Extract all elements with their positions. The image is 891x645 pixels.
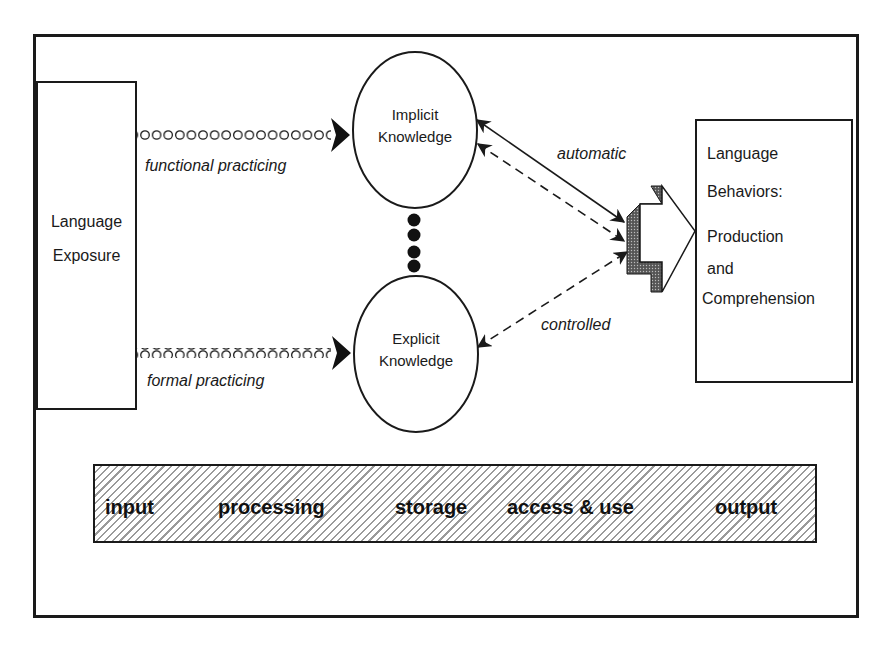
implicit-knowledge-label: Implicit Knowledge [353, 104, 477, 148]
implicit-label-line2: Knowledge [353, 126, 477, 148]
automatic-solid-arrow [477, 120, 624, 222]
formal-practicing-chain-arrow [137, 336, 351, 370]
functional-practicing-chain-arrow [137, 118, 350, 152]
explicit-label-line2: Knowledge [354, 350, 478, 372]
explicit-label-line1: Explicit [354, 328, 478, 350]
stage-access-use: access & use [507, 496, 634, 519]
implicit-label-line1: Implicit [353, 104, 477, 126]
stage-processing: processing [218, 496, 325, 519]
diagram-graphics [0, 0, 891, 645]
processing-stages-band: input processing storage access & use ou… [93, 464, 817, 543]
stage-output: output [715, 496, 777, 519]
functional-practicing-label: functional practicing [145, 157, 286, 175]
stage-storage: storage [395, 496, 467, 519]
explicit-knowledge-label: Explicit Knowledge [354, 328, 478, 372]
output-block-arrow-icon [627, 186, 695, 292]
interface-dots-icon [408, 214, 421, 273]
formal-practicing-label: formal practicing [147, 372, 264, 390]
stage-input: input [105, 496, 154, 519]
automatic-label: automatic [557, 145, 626, 163]
controlled-label: controlled [541, 316, 610, 334]
